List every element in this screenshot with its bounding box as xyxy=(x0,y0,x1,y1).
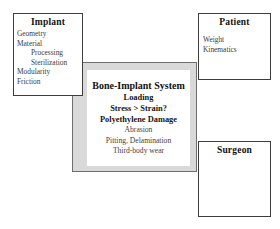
list-item: Kinematics xyxy=(203,45,270,55)
list-item: Weight xyxy=(203,35,270,45)
bone-implant-system-box: Bone-Implant System Loading Stress > Str… xyxy=(72,62,197,172)
system-line-third-body-wear: Third-body wear xyxy=(113,146,164,156)
list-item: Material xyxy=(17,39,82,49)
list-item: Modularity xyxy=(17,67,82,77)
system-line-pitting-delamination: Pitting, Delamination xyxy=(106,136,171,146)
system-line-loading: Loading xyxy=(124,92,154,103)
system-line-polyethylene-damage: Polyethylene Damage xyxy=(100,114,177,125)
list-item: Sterilization xyxy=(17,58,82,68)
system-line-stress-strain: Stress > Strain? xyxy=(110,103,167,114)
implant-box-title: Implant xyxy=(14,16,82,28)
list-item: Geometry xyxy=(17,29,82,39)
system-title: Bone-Implant System xyxy=(92,80,185,93)
diagram-canvas: Bone-Implant System Loading Stress > Str… xyxy=(0,0,280,229)
surgeon-box: Surgeon xyxy=(198,141,271,217)
implant-factor-list: Geometry Material Processing Sterilizati… xyxy=(14,29,82,87)
list-item: Processing xyxy=(17,48,82,58)
bone-implant-system-inner-panel: Bone-Implant System Loading Stress > Str… xyxy=(87,70,190,166)
patient-factor-list: Weight Kinematics xyxy=(199,35,270,54)
implant-box: Implant Geometry Material Processing Ste… xyxy=(13,13,83,96)
list-item: Friction xyxy=(17,77,82,87)
patient-box-title: Patient xyxy=(199,16,270,28)
patient-box: Patient Weight Kinematics xyxy=(198,13,271,80)
system-line-abrasion: Abrasion xyxy=(125,125,153,135)
surgeon-box-title: Surgeon xyxy=(199,144,270,156)
